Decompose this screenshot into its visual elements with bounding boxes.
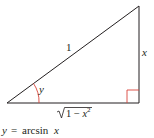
caption: y = arcsin x [1, 124, 59, 136]
radicand-one: 1 − [66, 108, 82, 119]
angle-label: y [38, 83, 44, 95]
radicand-text: 1 − x [66, 108, 87, 119]
hypotenuse-line [7, 6, 139, 103]
hypotenuse-label: 1 [66, 41, 72, 53]
caption-arg: x [53, 124, 59, 136]
adjacent-label: 1 − x 2 [57, 106, 92, 119]
right-angle-marker [127, 90, 139, 103]
caption-equals: = [11, 124, 17, 136]
caption-func: arcsin [22, 124, 49, 136]
triangle-diagram: 1 x y 1 − x 2 y = arcsin x [0, 0, 154, 138]
caption-lhs: y [1, 124, 7, 136]
radicand-exponent: 2 [87, 106, 91, 114]
opposite-label: x [141, 46, 147, 58]
